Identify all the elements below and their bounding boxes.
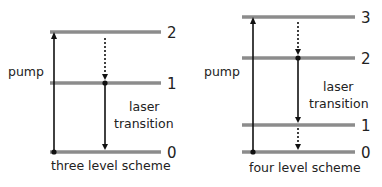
level-label-3: 3: [361, 9, 371, 27]
level-label-1: 1: [361, 117, 371, 135]
laser-label-line2: transition: [114, 116, 174, 131]
four-level-scheme: 3 2 1 0 pump laser transition four level…: [204, 9, 371, 175]
decay-arrowhead-icon: [295, 49, 301, 55]
laser-label-line2: transition: [309, 96, 369, 111]
decay-arrowhead-icon: [295, 144, 301, 150]
level-label-2: 2: [361, 50, 371, 68]
laser-arrowhead-icon: [295, 117, 301, 123]
laser-arrowhead-icon: [102, 144, 108, 150]
energy-level-diagrams: 2 1 0 pump laser transition three level …: [0, 0, 382, 187]
decay-arrowhead-icon: [102, 74, 108, 80]
level-label-0: 0: [361, 144, 371, 162]
three-level-scheme: 2 1 0 pump laser transition three level …: [8, 24, 177, 173]
diagram-caption: three level scheme: [51, 158, 171, 173]
pump-label: pump: [8, 64, 44, 79]
laser-label-line1: laser: [129, 99, 160, 114]
level-label-2: 2: [167, 24, 177, 42]
level-label-1: 1: [167, 75, 177, 93]
pump-label: pump: [204, 64, 240, 79]
laser-label-line1: laser: [323, 79, 354, 94]
diagram-caption: four level scheme: [249, 160, 361, 175]
